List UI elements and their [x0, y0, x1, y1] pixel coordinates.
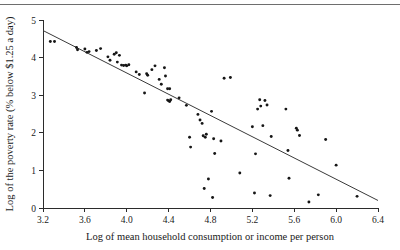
data-point: [158, 78, 161, 81]
data-point: [135, 70, 138, 73]
data-point: [88, 50, 91, 53]
data-point: [164, 75, 167, 78]
data-point: [143, 91, 146, 94]
data-point: [220, 140, 223, 143]
data-point: [150, 68, 153, 71]
data-point: [53, 40, 56, 43]
data-point: [211, 196, 214, 199]
x-tick-label: 3.2: [37, 215, 49, 225]
y-tick-label: 5: [31, 16, 36, 26]
data-point: [269, 194, 272, 197]
data-point: [188, 136, 191, 139]
x-tick-label: 3.6: [79, 215, 91, 225]
data-point: [205, 133, 208, 136]
data-point: [199, 119, 202, 122]
data-point: [258, 98, 261, 101]
data-point: [115, 51, 118, 54]
data-point: [109, 59, 112, 62]
data-point: [201, 122, 204, 125]
x-tick-label: 6.0: [330, 215, 342, 225]
data-point: [287, 149, 290, 152]
data-point: [196, 113, 199, 116]
data-point: [213, 152, 216, 155]
y-tick-label: 2: [31, 128, 36, 138]
data-point: [324, 138, 327, 141]
data-point: [335, 164, 338, 167]
data-point: [106, 55, 109, 58]
data-point: [238, 172, 241, 175]
data-point: [251, 125, 254, 128]
data-point: [307, 201, 310, 204]
tick-labels-group: 3.23.64.04.44.85.25.66.06.4012345: [31, 16, 384, 226]
data-point: [118, 54, 121, 57]
data-point: [160, 83, 163, 86]
poverty-rate-scatter-figure: 3.23.64.04.44.85.25.66.06.4012345 Log of…: [0, 0, 400, 250]
data-point: [253, 192, 256, 195]
regression-trendline: [43, 31, 378, 201]
y-tick-label: 4: [31, 53, 36, 63]
x-tick-label: 6.4: [372, 215, 384, 225]
trendline-group: [43, 31, 378, 201]
data-point: [261, 124, 264, 127]
y-tick-label: 3: [31, 91, 36, 101]
data-point: [210, 110, 213, 113]
x-tick-label: 4.8: [205, 215, 217, 225]
data-point: [76, 48, 79, 51]
data-point: [163, 66, 166, 69]
data-point: [296, 129, 299, 132]
data-points-group: [49, 40, 359, 203]
data-point: [83, 48, 86, 51]
data-point: [259, 105, 262, 108]
y-tick-label: 0: [31, 204, 36, 214]
data-point: [263, 99, 266, 102]
data-point: [266, 104, 269, 107]
y-tick-label: 1: [31, 166, 36, 176]
data-point: [185, 104, 188, 107]
data-point: [212, 137, 215, 140]
data-point: [95, 49, 98, 52]
data-point: [178, 96, 181, 99]
data-point: [203, 187, 206, 190]
data-point: [288, 177, 291, 180]
data-point: [284, 108, 287, 111]
data-point: [154, 64, 157, 67]
data-point: [99, 47, 102, 50]
x-tick-label: 5.2: [246, 215, 258, 225]
x-tick-label: 4.4: [163, 215, 175, 225]
data-point: [169, 98, 172, 101]
x-tick-label: 5.6: [288, 215, 300, 225]
data-point: [270, 135, 273, 138]
data-point: [207, 178, 210, 181]
data-point: [223, 77, 226, 80]
data-point: [138, 73, 141, 76]
data-point: [254, 152, 257, 155]
data-point: [229, 76, 232, 79]
data-point: [189, 146, 192, 149]
data-point: [168, 87, 171, 90]
data-point: [146, 74, 149, 77]
data-point: [356, 195, 359, 198]
data-point: [127, 63, 130, 66]
data-point: [298, 134, 301, 137]
y-axis-title: Log of the poverty rate (% below $1.25 a…: [4, 16, 16, 211]
data-point: [317, 193, 320, 196]
scatter-plot: 3.23.64.04.44.85.25.66.06.4012345 Log of…: [0, 0, 400, 250]
axes-group: [39, 20, 378, 212]
data-point: [49, 40, 52, 43]
data-point: [116, 61, 119, 64]
data-point: [204, 136, 207, 139]
x-axis-title: Log of mean household consumption or inc…: [86, 231, 335, 242]
x-tick-label: 4.0: [121, 215, 133, 225]
data-point: [256, 108, 259, 111]
